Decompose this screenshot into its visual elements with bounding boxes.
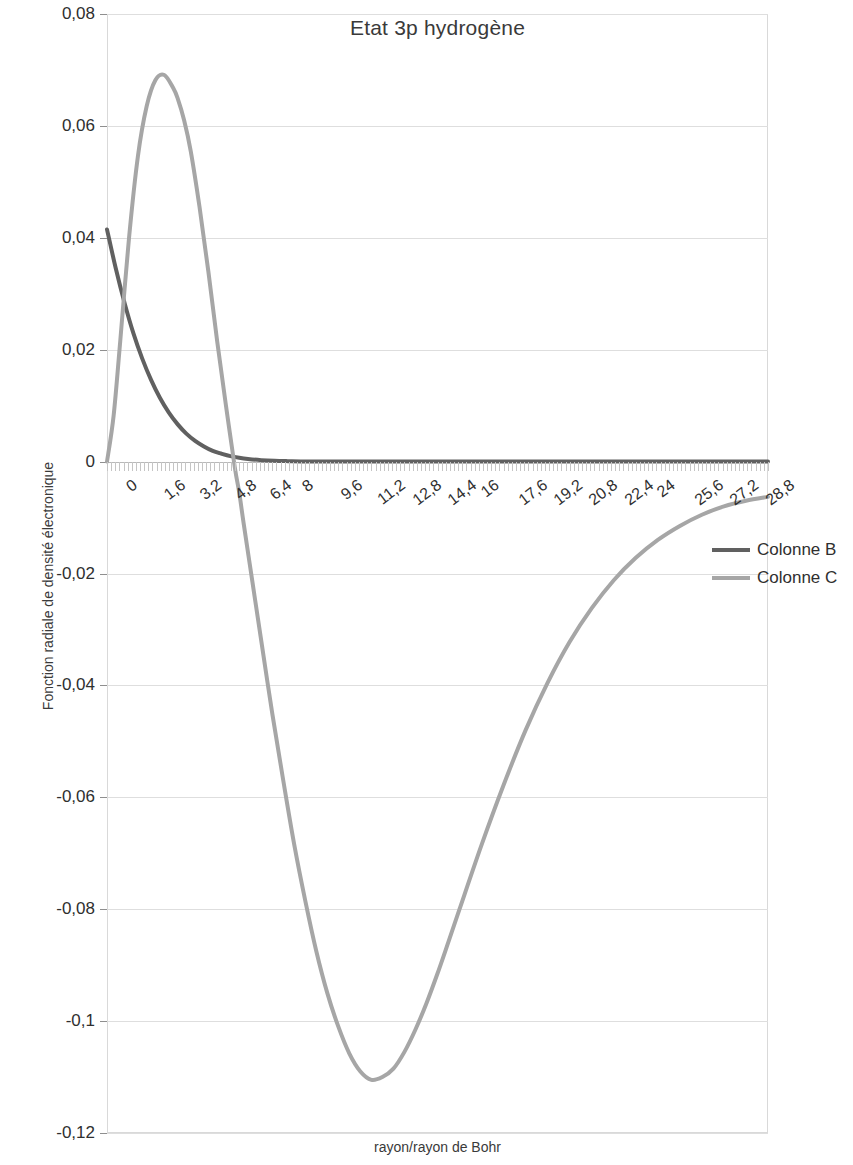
minor-tick [735, 462, 736, 471]
minor-tick [528, 462, 529, 471]
x-axis-tick-label: 4,8 [231, 476, 260, 504]
minor-tick [648, 462, 649, 471]
minor-tick [454, 462, 455, 471]
legend-item-colonne-c[interactable]: Colonne C [712, 564, 853, 592]
minor-tick [636, 462, 637, 471]
minor-tick [764, 462, 765, 471]
x-axis-tick-label: 6,4 [266, 476, 295, 504]
minor-tick [516, 462, 517, 471]
minor-tick [578, 462, 579, 471]
minor-tick [148, 462, 149, 471]
legend-label-colonne-b: Colonne B [757, 540, 836, 560]
minor-tick [264, 462, 265, 471]
minor-tick [582, 462, 583, 471]
minor-tick [214, 462, 215, 471]
minor-tick [417, 462, 418, 471]
minor-tick [524, 462, 525, 471]
minor-tick [247, 462, 248, 471]
minor-tick [553, 462, 554, 471]
minor-tick [165, 462, 166, 471]
y-axis-tick-mark [100, 685, 107, 686]
minor-tick [698, 462, 699, 471]
minor-tick [400, 462, 401, 471]
minor-tick [673, 462, 674, 471]
y-axis-tick-mark [100, 1133, 107, 1134]
minor-tick [549, 462, 550, 471]
minor-tick [421, 462, 422, 471]
minor-tick [359, 462, 360, 471]
minor-tick [619, 462, 620, 471]
minor-tick [557, 462, 558, 471]
minor-tick [206, 462, 207, 471]
minor-tick [681, 462, 682, 471]
minor-tick [586, 462, 587, 471]
minor-tick [404, 462, 405, 471]
minor-tick [718, 462, 719, 471]
minor-tick [479, 462, 480, 471]
minor-tick [128, 462, 129, 471]
y-axis-tick-mark [100, 14, 107, 15]
chart-container: Etat 3p hydrogène Fonction radiale de de… [0, 0, 853, 1165]
minor-tick [677, 462, 678, 471]
y-axis-tick-mark [100, 350, 107, 351]
minor-tick [756, 462, 757, 471]
minor-tick [330, 462, 331, 471]
minor-tick [107, 462, 108, 471]
legend-item-colonne-b[interactable]: Colonne B [712, 536, 853, 564]
minor-tick [702, 462, 703, 471]
x-axis-tick-label: 19,2 [550, 476, 586, 509]
minor-tick [177, 462, 178, 471]
x-axis-tick-label: 27,2 [727, 476, 763, 509]
minor-tick [727, 462, 728, 471]
minor-tick [152, 462, 153, 471]
x-axis-title: rayon/rayon de Bohr [107, 1139, 768, 1155]
minor-tick [185, 462, 186, 471]
minor-tick [227, 462, 228, 471]
x-axis-tick-label: 20,8 [586, 476, 622, 509]
y-axis-tick-label: 0,08 [15, 4, 95, 24]
minor-tick [570, 462, 571, 471]
x-axis-tick-labels: 01,63,24,86,489,611,212,814,41617,619,22… [107, 476, 768, 536]
x-axis-tick-label: 22,4 [621, 476, 657, 509]
x-axis-tick-label: 25,6 [691, 476, 727, 509]
chart-legend: Colonne B Colonne C [712, 536, 853, 592]
y-axis-tick-label: 0 [15, 452, 95, 472]
minor-tick [272, 462, 273, 471]
minor-tick [615, 462, 616, 471]
minor-tick [136, 462, 137, 471]
minor-tick [656, 462, 657, 471]
minor-tick [747, 462, 748, 471]
gridline [107, 1133, 768, 1134]
minor-tick [751, 462, 752, 471]
minor-tick [491, 462, 492, 471]
minor-tick [252, 462, 253, 471]
minor-tick [599, 462, 600, 471]
x-axis-tick-label: 3,2 [196, 476, 225, 504]
minor-tick [483, 462, 484, 471]
x-axis-tick-comb [107, 462, 768, 471]
minor-tick [520, 462, 521, 471]
minor-tick [574, 462, 575, 471]
minor-tick [504, 462, 505, 471]
minor-tick [231, 462, 232, 471]
minor-tick [338, 462, 339, 471]
minor-tick [157, 462, 158, 471]
minor-tick [289, 462, 290, 471]
minor-tick [371, 462, 372, 471]
y-axis-tick-label: 0,02 [15, 340, 95, 360]
y-axis-tick-mark [100, 574, 107, 575]
minor-tick [487, 462, 488, 471]
minor-tick [561, 462, 562, 471]
minor-tick [194, 462, 195, 471]
minor-tick [276, 462, 277, 471]
minor-tick [685, 462, 686, 471]
minor-tick [442, 462, 443, 471]
minor-tick [710, 462, 711, 471]
minor-tick [219, 462, 220, 471]
minor-tick [281, 462, 282, 471]
minor-tick [322, 462, 323, 471]
minor-tick [380, 462, 381, 471]
minor-tick [392, 462, 393, 471]
legend-label-colonne-c: Colonne C [757, 568, 837, 588]
y-axis-tick-label: -0,1 [15, 1011, 95, 1031]
